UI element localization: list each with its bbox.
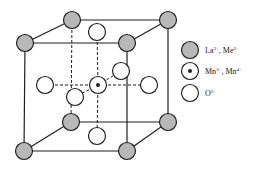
a-site-ion [16, 143, 33, 160]
legend-item-b-site: Mn3+, Mn4+ [180, 61, 242, 81]
a-site-ion [63, 114, 80, 131]
legend-label-b-site: Mn3+, Mn4+ [205, 67, 242, 76]
a-site-ion [64, 12, 81, 29]
oxygen-ion [113, 63, 130, 80]
legend-item-oxygen: O2- [180, 83, 215, 103]
oxygen-ion [141, 77, 158, 94]
legend: La3+, Me2+ Mn3+, Mn4+ O2- [180, 0, 264, 169]
legend-item-a-site: La3+, Me2+ [180, 40, 239, 60]
oxygen-ion [89, 128, 106, 145]
oxygen-ion [89, 24, 106, 41]
oxygen-ion [67, 89, 84, 106]
a-site-ion [17, 35, 34, 52]
b-site-ion-icon [180, 61, 200, 81]
legend-label-oxygen: O2- [205, 89, 215, 98]
a-site-ion [160, 114, 177, 131]
a-site-ion [119, 35, 136, 52]
a-site-ion [160, 12, 177, 29]
atoms [16, 12, 177, 160]
oxygen-ion-icon [180, 83, 200, 103]
a-site-ion [119, 143, 136, 160]
legend-label-a-site: La3+, Me2+ [205, 46, 239, 55]
a-site-ion-icon [180, 40, 200, 60]
oxygen-ion [37, 77, 54, 94]
